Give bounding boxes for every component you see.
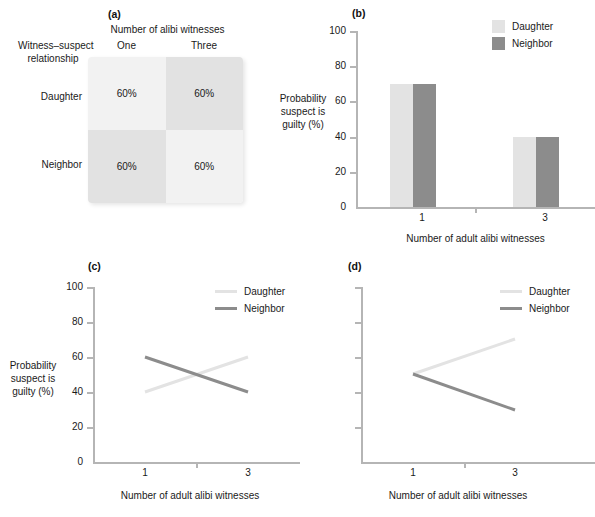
bar-daughter-3	[513, 137, 536, 207]
panel-d-xaxis-title: Number of adult alibi witnesses	[348, 490, 568, 501]
panel-b-yaxis-title-line3: guilty (%)	[270, 118, 336, 131]
panel-b-xlabel-1: 1	[407, 212, 437, 223]
panel-d-xlabel-1: 1	[398, 467, 428, 478]
panel-a-column-group-title: Number of alibi witnesses	[60, 24, 275, 35]
panel-b-label: (b)	[352, 7, 365, 19]
panel-a-row-header-neighbor: Neighbor	[8, 159, 82, 170]
panel-b-ylabel-80: 80	[310, 60, 346, 71]
bar-daughter-1	[390, 84, 413, 207]
panel-c-xlabel-1: 1	[130, 467, 160, 478]
panel-a-row-group-title-line2: relationship	[18, 53, 88, 64]
panel-d-xtick-mid	[464, 462, 466, 468]
panel-b-ylabel-40: 40	[310, 131, 346, 142]
panel-c-xaxis-title: Number of adult alibi witnesses	[80, 490, 300, 501]
panel-b-xaxis-title: Number of adult alibi witnesses	[356, 233, 595, 244]
panel-d-xlabel-3: 3	[500, 467, 530, 478]
panel-d-line-chart: (d) Daughter Neighbor 1 3 Number of adul…	[300, 250, 595, 517]
panel-b-yaxis-title-line2: suspect is	[270, 105, 336, 118]
panel-a-row-header-daughter: Daughter	[8, 91, 82, 102]
panel-b-plot-area	[356, 31, 595, 207]
panel-b-ylabel-20: 20	[310, 166, 346, 177]
panel-a-column-header-one: One	[88, 40, 165, 51]
panel-a-label: (a)	[108, 8, 121, 20]
panel-a-grid: 60% 60% 60% 60%	[88, 57, 243, 203]
panel-b-bar-chart: (b) Daughter Neighbor Probability suspec…	[270, 0, 595, 250]
panel-b-xlabel-3: 3	[530, 212, 560, 223]
panel-c-xlabel-3: 3	[233, 467, 263, 478]
panel-b-xtick-mid	[475, 207, 477, 213]
matrix-cell-daughter-three: 60%	[166, 57, 244, 130]
panel-a-row-group-title-line1: Witness–suspect	[18, 40, 88, 51]
panel-b-ylabel-60: 60	[310, 95, 346, 106]
panel-d-lines	[300, 250, 595, 517]
panel-c-xtick-mid	[196, 462, 198, 468]
matrix-cell-daughter-one: 60%	[88, 57, 166, 130]
matrix-cell-neighbor-three: 60%	[166, 130, 244, 203]
panel-c-line-chart: (c) Daughter Neighbor Probability suspec…	[0, 250, 300, 517]
bar-neighbor-1	[413, 84, 436, 207]
panel-b-ylabel-100: 100	[310, 25, 346, 36]
line-neighbor	[413, 374, 515, 410]
panel-a-column-header-three: Three	[165, 40, 243, 51]
line-daughter	[413, 339, 515, 374]
panel-b-ylabel-0: 0	[310, 201, 346, 212]
matrix-cell-neighbor-one: 60%	[88, 130, 166, 203]
bar-neighbor-3	[536, 137, 559, 207]
panel-a-matrix: (a) Number of alibi witnesses Witness–su…	[0, 0, 270, 230]
